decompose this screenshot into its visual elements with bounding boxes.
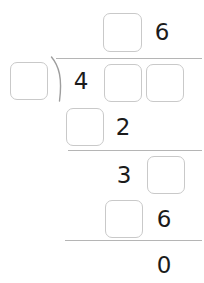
subtraction-rule-2 — [65, 240, 202, 241]
final-remainder-digit: 0 — [153, 254, 175, 277]
remainder-1-blank-box[interactable] — [147, 156, 185, 194]
divisor-blank-box[interactable] — [10, 62, 48, 100]
partial-product-1-digit-2: 2 — [112, 116, 134, 139]
subtraction-rule-1 — [68, 150, 202, 151]
long-division-worksheet: 6 4 2 3 6 0 — [0, 0, 204, 283]
dividend-digit-1: 4 — [70, 70, 92, 93]
partial-product-2-digit-2: 6 — [153, 208, 175, 231]
dividend-blank-box-3[interactable] — [146, 64, 184, 102]
partial-product-1-blank-box[interactable] — [66, 108, 104, 146]
partial-product-2-blank-box[interactable] — [105, 200, 143, 238]
remainder-1-digit-1: 3 — [113, 164, 135, 187]
quotient-digit-2: 6 — [151, 21, 173, 44]
division-bar — [56, 58, 202, 59]
division-bracket-icon — [50, 53, 66, 105]
quotient-blank-box-1[interactable] — [103, 13, 142, 52]
dividend-blank-box-2[interactable] — [104, 64, 142, 102]
